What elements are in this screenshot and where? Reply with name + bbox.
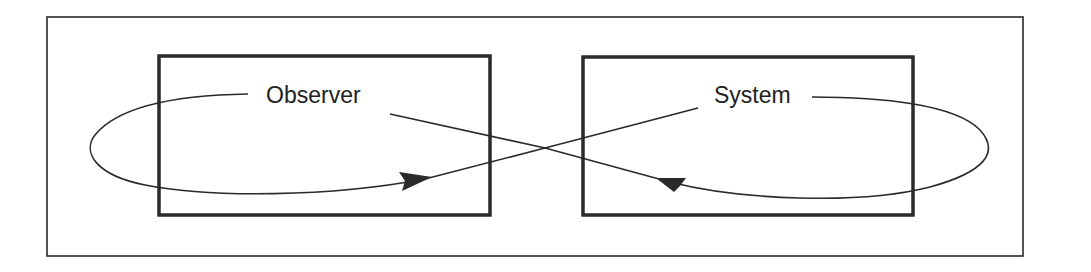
observer-label: Observer	[266, 82, 361, 108]
outer-frame	[47, 17, 1023, 256]
system-node: System	[583, 57, 913, 215]
observer-system-diagram: Observer System	[0, 0, 1091, 272]
observer-to-system-loop	[390, 97, 988, 198]
system-label: System	[714, 82, 791, 108]
system-to-observer-loop	[90, 94, 698, 194]
arrowhead-right-icon	[399, 172, 432, 191]
system-box	[583, 57, 913, 215]
